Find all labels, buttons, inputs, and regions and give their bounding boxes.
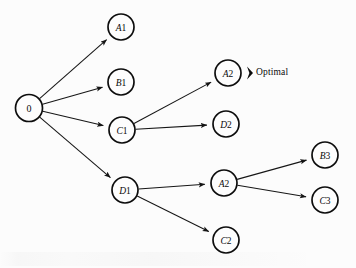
node-C3[interactable]: C3: [312, 187, 338, 213]
edge-root-to-D1: [40, 117, 111, 177]
node-label-B1: B1: [116, 78, 127, 88]
edge-A2l-to-C3: [237, 185, 306, 197]
node-label-root: 0: [27, 103, 32, 114]
edge-root-to-B1: [43, 87, 103, 104]
node-label-D2: D2: [219, 120, 232, 130]
optimal-marker-icon: [247, 67, 253, 80]
node-B3[interactable]: B3: [312, 142, 338, 168]
edge-C1-to-A2u: [134, 82, 211, 123]
node-B1[interactable]: B1: [108, 69, 134, 95]
node-root[interactable]: 0: [16, 95, 43, 122]
node-A2l[interactable]: A2: [211, 170, 237, 196]
edge-root-to-C1: [43, 111, 104, 125]
edge-D1-to-C2: [137, 196, 209, 231]
node-label-A2l: A2: [218, 179, 230, 189]
edge-D1-to-A2l: [139, 184, 205, 189]
figure-canvas: 0A1B1C1D1A2D2A2C2B3C3 Optimal: [0, 0, 356, 268]
tree-diagram: 0A1B1C1D1A2D2A2C2B3C3: [0, 0, 356, 268]
node-D2[interactable]: D2: [213, 111, 239, 137]
edge-A2l-to-B3: [237, 160, 306, 179]
nodes-layer: 0A1B1C1D1A2D2A2C2B3C3: [16, 14, 339, 253]
node-C1[interactable]: C1: [109, 117, 135, 143]
node-label-C2: C2: [220, 236, 231, 246]
node-label-D1: D1: [118, 186, 131, 196]
node-label-B3: B3: [320, 151, 331, 161]
edge-C1-to-D2: [136, 125, 207, 129]
node-label-A2u: A2: [222, 69, 234, 79]
node-D1[interactable]: D1: [112, 177, 138, 203]
node-C2[interactable]: C2: [213, 227, 239, 253]
edge-root-to-A1: [40, 40, 107, 99]
node-label-C1: C1: [116, 126, 127, 136]
node-A2u[interactable]: A2: [215, 60, 241, 86]
optimal-annotation-label: Optimal: [256, 67, 288, 77]
node-label-A1: A1: [115, 23, 127, 33]
node-label-C3: C3: [319, 196, 330, 206]
node-A1[interactable]: A1: [108, 14, 134, 40]
